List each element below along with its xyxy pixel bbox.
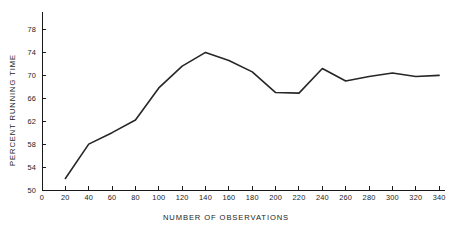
x-axis-tick-labels: 0204060801001201401601802002202402602803…	[40, 193, 446, 202]
x-tick-label: 180	[246, 193, 259, 202]
y-axis-tick-labels: 5054586266707478	[27, 25, 36, 195]
x-tick-label: 320	[409, 193, 422, 202]
y-axis: 5054586266707478	[27, 12, 46, 195]
y-tick-label: 54	[27, 163, 36, 172]
x-tick-label: 280	[363, 193, 376, 202]
x-tick-label: 340	[433, 193, 446, 202]
y-tick-label: 74	[27, 48, 36, 57]
x-axis-ticks	[65, 186, 439, 190]
chart-container: 5054586266707478 02040608010012014016018…	[0, 0, 451, 227]
y-tick-label: 58	[27, 140, 36, 149]
x-tick-label: 40	[84, 193, 93, 202]
x-tick-label: 60	[108, 193, 117, 202]
y-tick-label: 70	[27, 71, 36, 80]
x-tick-label: 100	[152, 193, 165, 202]
y-axis-ticks	[42, 29, 46, 190]
x-tick-label: 120	[176, 193, 189, 202]
data-series-line	[65, 52, 439, 178]
x-tick-label: 80	[131, 193, 140, 202]
line-chart-plot: 5054586266707478 02040608010012014016018…	[0, 0, 451, 227]
x-tick-label: 140	[199, 193, 212, 202]
y-axis-title: PERCENT RUNNING TIME	[8, 54, 17, 166]
x-tick-label: 160	[222, 193, 235, 202]
y-tick-label: 50	[27, 186, 36, 195]
x-tick-label: 20	[61, 193, 70, 202]
x-tick-label: 260	[339, 193, 352, 202]
x-tick-label: 300	[386, 193, 399, 202]
x-axis: 0204060801001201401601802002202402602803…	[40, 186, 446, 202]
y-tick-label: 62	[27, 117, 36, 126]
y-tick-label: 66	[27, 94, 36, 103]
x-tick-label: 200	[269, 193, 282, 202]
x-tick-label: 220	[293, 193, 306, 202]
x-axis-title: NUMBER OF OBSERVATIONS	[163, 213, 289, 222]
y-tick-label: 78	[27, 25, 36, 34]
x-tick-label: 240	[316, 193, 329, 202]
x-tick-label: 0	[40, 193, 44, 202]
